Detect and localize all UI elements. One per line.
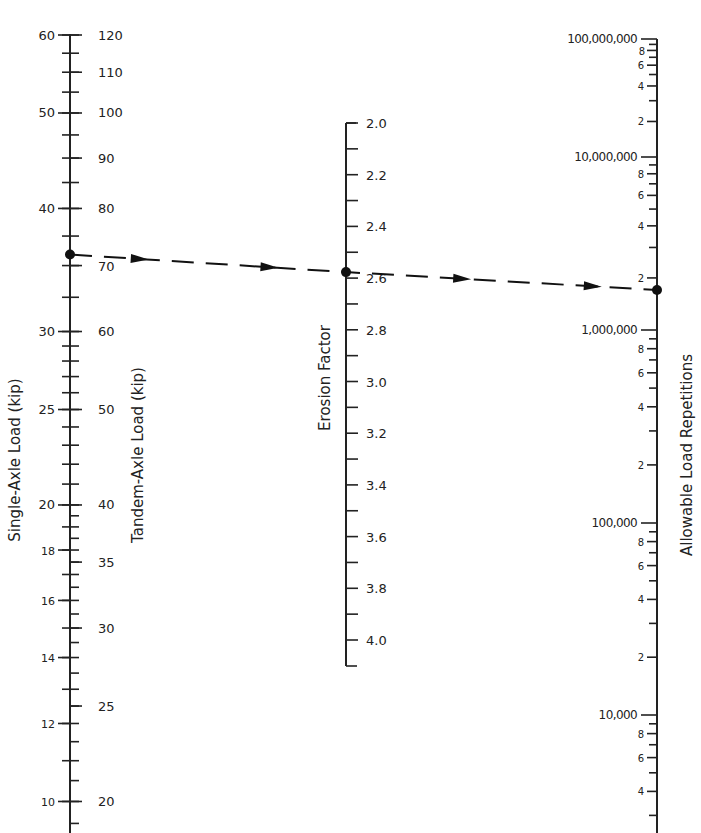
repetitions-minor-label: 2 xyxy=(638,460,644,471)
tandem-axle-tick-label: 60 xyxy=(98,324,115,339)
repetitions-minor-label: 8 xyxy=(638,537,644,548)
arrow-icon xyxy=(130,254,149,264)
arrow-icon xyxy=(260,262,279,272)
repetitions-minor-label: 4 xyxy=(638,786,644,797)
repetitions-minor-label: 8 xyxy=(638,729,644,740)
single-axle-tick-label: 10 xyxy=(41,796,55,809)
single-axle-tick-label: 30 xyxy=(38,324,55,339)
erosion-nomograph: 6050403025201816141210120110100908070605… xyxy=(0,0,701,833)
tandem-axle-tick-label: 35 xyxy=(98,555,115,570)
tandem-axle-axis-title: Tandem-Axle Load (kip) xyxy=(129,367,147,544)
example-dashed-path xyxy=(65,250,662,295)
single-axle-tick-label: 20 xyxy=(38,497,55,512)
repetitions-minor-label: 4 xyxy=(638,402,644,413)
tandem-axle-tick-label: 50 xyxy=(98,402,115,417)
tandem-axle-tick-label: 80 xyxy=(98,201,115,216)
erosion-factor-tick-label: 2.0 xyxy=(366,116,387,131)
repetitions-axis-title: Allowable Load Repetitions xyxy=(678,354,696,556)
repetitions-minor-label: 6 xyxy=(638,60,644,71)
repetitions-minor-label: 6 xyxy=(638,561,644,572)
repetitions-minor-label: 4 xyxy=(638,221,644,232)
repetitions-minor-label: 8 xyxy=(638,169,644,180)
dashed-line-segment-2 xyxy=(346,272,657,290)
single-axle-tick-label: 14 xyxy=(41,652,55,665)
single-axle-axis-title: Single-Axle Load (kip) xyxy=(6,378,24,541)
erosion-factor-tick-label: 3.0 xyxy=(366,375,387,390)
erosion-factor-tick-label: 3.8 xyxy=(366,581,387,596)
tandem-axle-tick-label: 25 xyxy=(98,699,115,714)
single-axle-tick-label: 18 xyxy=(41,545,55,558)
arrow-icon xyxy=(584,281,602,291)
repetitions-minor-label: 2 xyxy=(638,116,644,127)
tandem-axle-tick-label: 40 xyxy=(98,497,115,512)
single-axle-tick-label: 16 xyxy=(41,595,55,608)
repetitions-minor-label: 6 xyxy=(638,190,644,201)
repetitions-minor-label: 6 xyxy=(638,368,644,379)
repetitions-minor-label: 6 xyxy=(638,753,644,764)
path-point-marker xyxy=(65,250,75,260)
single-axle-tick-label: 40 xyxy=(38,201,55,216)
single-axle-tick-label: 60 xyxy=(38,28,55,43)
tandem-axle-tick-label: 20 xyxy=(98,794,115,809)
single-axle-tick-label: 50 xyxy=(38,105,55,120)
repetitions-decade-label: 10,000,000 xyxy=(574,150,637,164)
load-axis: 6050403025201816141210120110100908070605… xyxy=(38,28,122,833)
erosion-factor-tick-label: 3.4 xyxy=(366,478,387,493)
repetitions-decade-label: 100,000,000 xyxy=(567,32,637,46)
erosion-factor-tick-label: 4.0 xyxy=(366,633,387,648)
tandem-axle-tick-label: 90 xyxy=(98,151,115,166)
load-repetitions-axis: 100,000,000864210,000,00086421,000,00086… xyxy=(567,32,657,833)
tandem-axle-tick-label: 100 xyxy=(98,105,123,120)
tandem-axle-tick-label: 120 xyxy=(98,28,123,43)
path-point-marker xyxy=(341,267,351,277)
repetitions-decade-label: 10,000 xyxy=(599,708,637,722)
tandem-axle-tick-label: 30 xyxy=(98,621,115,636)
arrow-icon xyxy=(453,274,471,284)
tandem-axle-tick-label: 70 xyxy=(98,259,115,274)
repetitions-minor-label: 2 xyxy=(638,273,644,284)
single-axle-tick-label: 12 xyxy=(41,718,55,731)
repetitions-minor-label: 4 xyxy=(638,594,644,605)
repetitions-decade-label: 1,000,000 xyxy=(581,323,637,337)
erosion-factor-axis-title: Erosion Factor xyxy=(316,324,334,431)
repetitions-minor-label: 8 xyxy=(639,46,645,57)
erosion-factor-tick-label: 3.6 xyxy=(366,530,387,545)
repetitions-minor-label: 4 xyxy=(638,81,644,92)
tandem-axle-tick-label: 110 xyxy=(98,65,123,80)
repetitions-minor-label: 2 xyxy=(638,652,644,663)
erosion-factor-tick-label: 2.2 xyxy=(366,168,387,183)
single-axle-tick-label: 25 xyxy=(38,402,55,417)
repetitions-decade-label: 100,000 xyxy=(592,516,637,530)
erosion-factor-tick-label: 3.2 xyxy=(366,426,387,441)
repetitions-minor-label: 8 xyxy=(638,344,644,355)
erosion-factor-tick-label: 2.4 xyxy=(366,219,387,234)
erosion-factor-tick-label: 2.8 xyxy=(366,323,387,338)
erosion-factor-axis: 2.02.22.42.62.83.03.23.43.63.84.0 xyxy=(346,116,387,666)
path-point-marker xyxy=(652,285,662,295)
